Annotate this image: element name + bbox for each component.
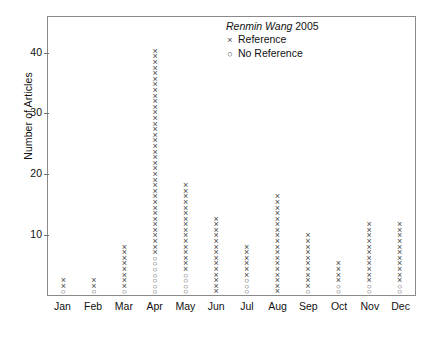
legend-title: Renmin Wang 2005 xyxy=(226,20,319,33)
legend-title-author: Renmin Wang xyxy=(226,20,292,32)
no-reference-marker-icon: ○ xyxy=(149,289,161,295)
column-apr: ○○○○○○○×××××××××××××××××××××××××××××××××… xyxy=(140,17,171,295)
legend-label-reference: Reference xyxy=(238,33,286,46)
x-axis-label-apr: Apr xyxy=(139,300,170,312)
no-reference-marker-icon: ○ xyxy=(118,289,130,295)
no-reference-marker-icon: ○ xyxy=(302,289,314,295)
column-dec: ○○××××××××××× xyxy=(384,17,415,295)
no-reference-marker-icon: ○ xyxy=(88,289,100,295)
x-axis-labels: JanFebMarAprMayJunJulAugSepOctNovDec xyxy=(47,300,416,312)
article-count-dot-plot: Number of Articles 10203040 ○××○××○×××××… xyxy=(0,0,430,344)
x-axis-label-feb: Feb xyxy=(78,300,109,312)
x-axis-label-mar: Mar xyxy=(109,300,140,312)
x-axis-label-jul: Jul xyxy=(232,300,263,312)
x-axis-label-nov: Nov xyxy=(355,300,386,312)
x-axis-label-jun: Jun xyxy=(201,300,232,312)
no-reference-marker-icon: ○ xyxy=(180,289,192,295)
legend-entry-no-reference: ○ No Reference xyxy=(226,47,319,61)
no-reference-marker-icon: ○ xyxy=(363,289,375,295)
legend-entry-reference: × Reference xyxy=(226,33,319,47)
x-axis-label-aug: Aug xyxy=(262,300,293,312)
y-tick-label: 40 xyxy=(16,46,42,58)
x-axis-label-dec: Dec xyxy=(385,300,416,312)
x-axis-label-jan: Jan xyxy=(47,300,78,312)
reference-marker-icon: × xyxy=(210,289,222,295)
legend-title-year: 2005 xyxy=(295,20,318,32)
no-reference-marker-icon: ○ xyxy=(332,289,344,295)
no-reference-marker-icon: ○ xyxy=(394,289,406,295)
y-tick-label: 30 xyxy=(16,106,42,118)
y-tick-label: 10 xyxy=(16,228,42,240)
column-feb: ○×× xyxy=(79,17,110,295)
y-tick-label: 20 xyxy=(16,167,42,179)
reference-marker-icon: × xyxy=(271,289,283,295)
column-may: ○○○○×××××××××××××××× xyxy=(170,17,201,295)
no-reference-marker-icon: ○ xyxy=(57,289,69,295)
x-axis-label-may: May xyxy=(170,300,201,312)
column-jan: ○×× xyxy=(48,17,79,295)
column-oct: ○○×××× xyxy=(323,17,354,295)
no-reference-marker-icon: ○ xyxy=(226,48,234,61)
x-axis-label-sep: Sep xyxy=(293,300,324,312)
legend-label-no-reference: No Reference xyxy=(238,47,303,60)
column-mar: ○×××××××× xyxy=(109,17,140,295)
x-axis-label-oct: Oct xyxy=(324,300,355,312)
reference-marker-icon: × xyxy=(226,34,234,47)
no-reference-marker-icon: ○ xyxy=(241,289,253,295)
legend: Renmin Wang 2005 × Reference ○ No Refere… xyxy=(226,20,319,61)
column-nov: ○○××××××××××× xyxy=(354,17,385,295)
